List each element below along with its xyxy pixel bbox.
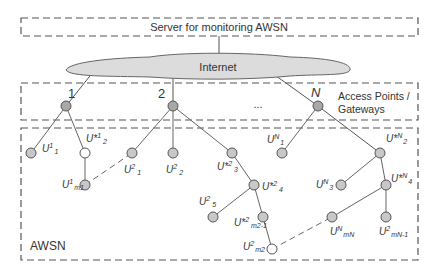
label-ustar2-4: U*24 [262, 180, 283, 193]
label-un-1: UN1 [267, 133, 284, 146]
label-un-mn: UNmN [330, 225, 355, 238]
node-ustar2-m2-1 [258, 212, 268, 222]
internet-label: Internet [199, 61, 236, 73]
label-un-3: UN3 [316, 178, 333, 191]
gateway-ellipsis: ... [253, 98, 262, 110]
node-u2-1 [127, 148, 137, 158]
server-label: Server for monitoring AWSN [150, 21, 288, 33]
node-u2-m2 [267, 244, 277, 254]
access-points-label-1: Access Points / [338, 90, 410, 102]
node-u1-1 [26, 148, 36, 158]
node-u2-2 [168, 148, 178, 158]
label-u2-mn-1: U2mN-1 [379, 225, 408, 238]
label-ustar2-3: U*23 [217, 160, 238, 173]
gateway-n-label: N [311, 85, 321, 100]
gateway-1-node [61, 101, 71, 111]
label-ustar1-2: U*12 [86, 132, 107, 145]
label-u2-5: U25 [199, 195, 216, 208]
label-ustarn-2: U*N2 [386, 132, 407, 145]
label-u1-1: U11 [42, 142, 59, 155]
awsn-label: AWSN [30, 239, 66, 253]
node-ustarn-2 [375, 148, 385, 158]
label-ustarn-4: U*N4 [391, 172, 412, 185]
label-u2-m2: U2m2 [243, 240, 265, 253]
label-u2-1: U21 [124, 163, 141, 176]
gateway-1-label: 1 [68, 86, 75, 101]
server-box: Server for monitoring AWSN [21, 18, 418, 36]
awsn-architecture-diagram: Server for monitoring AWSN Internet Acce… [0, 0, 436, 279]
node-u2-mn-1 [381, 212, 391, 222]
internet-cloud: Internet [66, 53, 350, 79]
label-u1-m1: U1m1 [62, 178, 84, 191]
gateway-n-node [313, 101, 323, 111]
node-ustar2-3 [227, 148, 237, 158]
node-un-1 [277, 148, 287, 158]
access-points-box: Access Points / Gateways 1 2 N ... [21, 83, 418, 120]
node-un-3 [336, 180, 346, 190]
gateway-2-label: 2 [158, 86, 165, 101]
node-un-mn [327, 212, 337, 222]
awsn-box: AWSN [21, 128, 418, 260]
node-ustar2-4 [249, 180, 259, 190]
gateway-2-node [168, 101, 178, 111]
node-u2-5 [208, 212, 218, 222]
node-ustarn-4 [381, 180, 391, 190]
label-u2-2: U22 [166, 163, 183, 176]
access-points-label-2: Gateways [338, 103, 385, 115]
node-ustar1-2 [80, 148, 90, 158]
